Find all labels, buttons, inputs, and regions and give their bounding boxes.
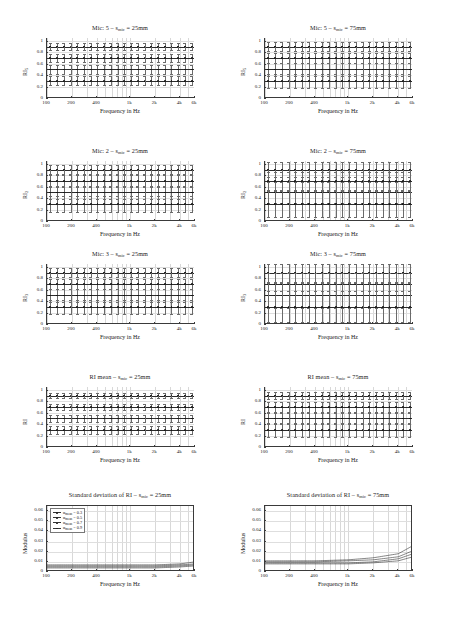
- y-axis-label: RI5: [22, 68, 29, 76]
- error-bar-cap: [136, 62, 139, 63]
- error-bar-cap: [267, 291, 270, 292]
- error-bar-cap: [183, 415, 186, 416]
- error-bar-cap: [177, 415, 180, 416]
- legend-entry-3[interactable]: αmean = 0.9: [53, 526, 82, 531]
- error-bar-cap: [334, 423, 337, 424]
- error-bar-cap: [130, 212, 133, 213]
- x-tick-label: 6k: [188, 573, 200, 578]
- gridline-horizontal: [47, 401, 194, 402]
- error-bar-cap: [83, 175, 86, 176]
- y-tick-mark: [264, 447, 266, 448]
- data-marker: [157, 203, 159, 205]
- error-bar-cap: [83, 54, 86, 55]
- error-bar-cap: [170, 74, 173, 75]
- y-tick-label: 0.6: [255, 184, 261, 189]
- error-bar-cap: [96, 279, 99, 280]
- error-bar-cap: [123, 415, 126, 416]
- error-bar-cap: [69, 422, 72, 423]
- error-bar-cap: [388, 399, 391, 400]
- data-marker: [56, 203, 58, 205]
- error-bar-cap: [334, 283, 337, 284]
- panel-title: Mic: 5 – smic = 25mm: [46, 24, 194, 32]
- error-bar-cap: [150, 393, 153, 394]
- error-bar-cap: [109, 415, 112, 416]
- x-tick-label: 1k: [341, 326, 353, 331]
- plot-area: [46, 264, 194, 324]
- error-bar-cap: [83, 404, 86, 405]
- error-bar-cap: [83, 43, 86, 44]
- error-bar-cap: [103, 74, 106, 75]
- data-marker: [321, 306, 323, 308]
- error-bar-cap: [130, 50, 133, 51]
- error-bar-cap: [157, 398, 160, 399]
- y-axis-label-subscript: 3: [242, 294, 247, 296]
- error-bar-cap: [395, 182, 398, 183]
- x-tick-label: 6k: [406, 573, 418, 578]
- data-marker: [110, 406, 112, 408]
- error-bar-cap: [190, 196, 193, 197]
- data-marker: [382, 57, 384, 59]
- error-bar-cap: [334, 63, 337, 64]
- error-bar-cap: [307, 392, 310, 393]
- data-marker: [184, 306, 186, 308]
- data-marker: [177, 180, 179, 182]
- error-bar-cap: [143, 289, 146, 290]
- panel-title-tail: = 75mm: [343, 24, 366, 31]
- error-bar-cap: [314, 264, 317, 265]
- x-tick-label: 2k: [366, 449, 378, 454]
- error-bar-cap: [116, 196, 119, 197]
- data-marker: [103, 180, 105, 182]
- y-tick-mark: [46, 290, 48, 291]
- error-bar-cap: [116, 85, 119, 86]
- data-marker: [368, 80, 370, 82]
- error-bar-cap: [314, 172, 317, 173]
- y-axis-label: RI3: [240, 294, 247, 302]
- error-bar-cap: [314, 283, 317, 284]
- error-bar-cap: [321, 88, 324, 89]
- y-tick-mark: [46, 278, 48, 279]
- x-tick-mark: [71, 322, 72, 324]
- error-bar-cap: [62, 268, 65, 269]
- error-bar-cap: [123, 196, 126, 197]
- error-bar-cap: [116, 415, 119, 416]
- y-tick-mark: [264, 221, 266, 222]
- data-marker: [137, 429, 139, 431]
- x-tick-label: 1k: [341, 100, 353, 105]
- error-bar: [71, 279, 72, 289]
- error-bar-cap: [408, 423, 411, 424]
- error-bar-cap: [56, 62, 59, 63]
- error-bar-cap: [408, 402, 411, 403]
- error-bar-cap: [408, 191, 411, 192]
- error-bar-cap: [143, 415, 146, 416]
- error-bar-cap: [136, 54, 139, 55]
- error-bar-cap: [341, 264, 344, 265]
- error-bar-cap: [388, 182, 391, 183]
- data-marker: [382, 429, 384, 431]
- error-bar-cap: [109, 426, 112, 427]
- error-bar-cap: [96, 50, 99, 51]
- error-bar-cap: [267, 74, 270, 75]
- error-bar-cap: [69, 314, 72, 315]
- error-bar-cap: [130, 74, 133, 75]
- error-bar-cap: [157, 74, 160, 75]
- data-marker: [409, 429, 411, 431]
- data-marker: [335, 57, 337, 59]
- data-marker: [90, 306, 92, 308]
- error-bar-cap: [287, 53, 290, 54]
- error-bar-cap: [96, 43, 99, 44]
- error-bar-cap: [177, 393, 180, 394]
- error-bar-cap: [136, 422, 139, 423]
- error-bar-cap: [408, 172, 411, 173]
- error-bar-cap: [395, 392, 398, 393]
- y-tick-label: 0.4: [37, 298, 43, 303]
- error-bar-cap: [177, 268, 180, 269]
- data-marker: [335, 306, 337, 308]
- error-bar-cap: [157, 279, 160, 280]
- y-tick-label: 0.6: [37, 287, 43, 292]
- error-bar-cap: [190, 65, 193, 66]
- error-bar-cap: [287, 191, 290, 192]
- chart-panel-mic2-25: Mic: 2 – smic = 25mm00.20.40.60.81100200…: [16, 147, 204, 239]
- error-bar-cap: [301, 413, 304, 414]
- error-bar-cap: [83, 186, 86, 187]
- error-bar-cap: [123, 175, 126, 176]
